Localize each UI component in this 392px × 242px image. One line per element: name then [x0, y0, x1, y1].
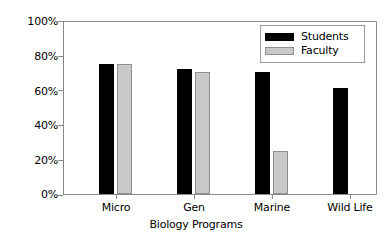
- x-tick-label-micro: Micro: [77, 202, 155, 214]
- x-tick-mark-gen: [194, 195, 195, 199]
- y-tick-label-0: 0%: [41, 189, 58, 200]
- x-tick-mark-micro: [116, 195, 117, 199]
- y-tick-label-20: 20%: [34, 155, 58, 166]
- bar-gen-students: [177, 69, 192, 194]
- bar-micro-students: [99, 64, 114, 195]
- y-tick-label-60: 60%: [34, 86, 58, 97]
- y-tick-label-80: 80%: [34, 51, 58, 62]
- legend-entry-students: Students: [265, 30, 359, 44]
- x-tick-label-marine: Marine: [233, 202, 311, 214]
- y-axis: 100% 80% 60% 40% 20% 0%: [0, 0, 58, 242]
- x-tick-label-gen: Gen: [155, 202, 233, 214]
- bar-micro-faculty: [117, 64, 132, 195]
- legend-entry-faculty: Faculty: [265, 44, 359, 58]
- bar-marine-students: [255, 72, 270, 194]
- x-tick-mark-marine: [272, 195, 273, 199]
- bar-marine-faculty: [273, 151, 288, 195]
- legend-label-students: Students: [301, 31, 348, 43]
- legend-label-faculty: Faculty: [301, 45, 339, 57]
- x-tick-label-wildlife: Wild Life: [311, 202, 389, 214]
- faculty-swatch-icon: [265, 47, 294, 55]
- plot-area: Students Faculty: [63, 21, 377, 195]
- students-swatch-icon: [265, 33, 294, 41]
- y-tick-label-40: 40%: [34, 120, 58, 131]
- legend: Students Faculty: [260, 25, 365, 63]
- y-tick-label-100: 100%: [27, 16, 58, 27]
- bar-gen-faculty: [195, 72, 210, 194]
- x-tick-mark-wildlife: [350, 195, 351, 199]
- y-tick-mark-0: [58, 195, 63, 196]
- bar-wildlife-students: [333, 88, 348, 194]
- bar-chart: 100% 80% 60% 40% 20% 0% Students: [0, 0, 392, 242]
- x-axis-title: Biology Programs: [0, 219, 392, 231]
